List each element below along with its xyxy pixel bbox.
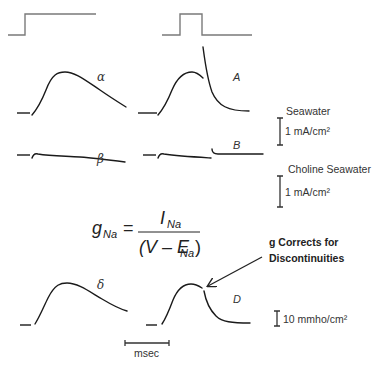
trace-A (158, 72, 203, 115)
scale-conductance: 10 mmho/cm² (283, 313, 348, 325)
eq-den-sub: Na (180, 247, 194, 259)
scalebar-current-choline (277, 176, 283, 207)
eq-equals: = (123, 218, 134, 238)
eq-den-close: ) (195, 237, 201, 257)
trace-D-tail (204, 291, 250, 323)
trace-beta (32, 154, 125, 162)
eq-num-sub: Na (167, 218, 181, 230)
annotation-arrow (208, 257, 262, 286)
scale-time: msec (134, 347, 159, 359)
label-D: D (233, 293, 241, 305)
trace-delta (35, 283, 127, 324)
label-A: A (232, 71, 240, 83)
condition-choline-seawater: Choline Seawater (288, 163, 371, 175)
trace-B (158, 154, 211, 158)
trace-D (162, 284, 202, 324)
scalebar-conductance (274, 311, 280, 326)
eq-lhs-sub: Na (103, 228, 117, 240)
scalebar-current-seawater (277, 118, 283, 145)
scale-current-choline: 1 mA/cm² (285, 186, 330, 198)
scale-current-seawater: 1 mA/cm² (285, 125, 330, 137)
trace-A-tail (203, 47, 249, 111)
label-alpha: α (97, 70, 105, 84)
annotation-line2: Discontinuities (269, 252, 344, 264)
trace-alpha (32, 72, 126, 115)
label-beta: β (96, 152, 104, 166)
scalebar-time (125, 340, 169, 346)
annotation-line1: g Corrects for (269, 236, 338, 248)
voltage-step-long (8, 14, 96, 35)
eq-lhs-var: g (92, 218, 102, 238)
label-B: B (233, 139, 240, 151)
eq-num-var: I (160, 208, 165, 228)
label-delta: δ (97, 278, 104, 292)
condition-seawater: Seawater (286, 105, 331, 117)
sodium-conductance-diagram: α A Seawater 1 mA/cm² β B Choline Seawat… (0, 0, 383, 369)
voltage-step-short (162, 14, 252, 35)
conductance-equation: g Na = I Na (V – E Na ) (92, 208, 201, 259)
